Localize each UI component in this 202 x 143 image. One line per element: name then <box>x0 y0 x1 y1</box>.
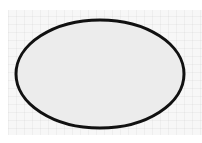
ellipse-shape-layer <box>0 0 202 143</box>
ellipse-shape[interactable] <box>16 20 184 128</box>
diagram-canvas <box>0 0 202 143</box>
